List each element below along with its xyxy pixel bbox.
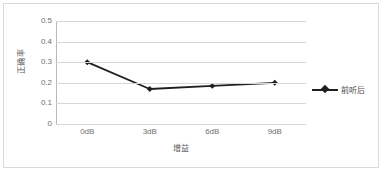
plot-area	[56, 21, 306, 124]
x-axis-tick-label: 3dB	[120, 127, 180, 136]
gridline	[56, 83, 306, 84]
y-axis-tick-label: 0.4	[26, 38, 52, 46]
series-line	[87, 62, 275, 89]
data-point-marker	[147, 86, 153, 92]
y-axis-tick-label: 0	[26, 120, 52, 128]
x-axis-tick-label: 0dB	[57, 127, 117, 136]
y-axis-tick-label: 0.3	[26, 58, 52, 66]
y-axis-tick-labels: 0.50.40.30.20.10	[26, 4, 52, 169]
gridline	[56, 42, 306, 43]
diamond-line-marker-icon	[312, 85, 338, 95]
y-axis-title: 正确率	[15, 34, 26, 90]
x-axis-tick-label: 6dB	[182, 127, 242, 136]
data-point-marker	[209, 83, 215, 89]
gridline	[56, 124, 306, 125]
gridline	[56, 21, 306, 22]
chart-legend: 前听后	[312, 84, 365, 95]
series-line-chart	[56, 21, 306, 124]
legend-item-label: 前听后	[341, 84, 365, 95]
y-axis-tick-label: 0.5	[26, 17, 52, 25]
y-axis-tick-label: 0.1	[26, 99, 52, 107]
y-axis-tick-label: 0.2	[26, 79, 52, 87]
chart-plot-wrapper: 正确率 0.50.40.30.20.10 0dB3dB6dB9dB 增益 前听后	[4, 4, 380, 169]
gridline	[56, 103, 306, 104]
x-axis-tick-label: 9dB	[245, 127, 305, 136]
chart-frame: 正确率 0.50.40.30.20.10 0dB3dB6dB9dB 增益 前听后	[3, 3, 379, 168]
gridline	[56, 62, 306, 63]
x-axis-title: 增益	[56, 142, 306, 153]
x-axis-tick-labels: 0dB3dB6dB9dB	[56, 127, 306, 141]
